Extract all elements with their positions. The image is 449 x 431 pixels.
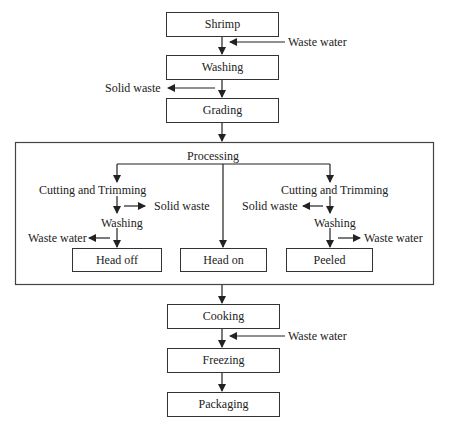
step-label: Grading: [203, 103, 242, 118]
right-cutting-trimming: Cutting and Trimming: [281, 183, 388, 197]
step-freezing: Freezing: [167, 348, 280, 373]
step-label: Shrimp: [205, 17, 240, 32]
label-waste-water-cooking: Waste water: [288, 329, 347, 343]
step-label: Freezing: [203, 353, 245, 368]
result-label: Head off: [96, 253, 138, 268]
label-waste-water-input: Waste water: [288, 35, 347, 49]
result-peeled: Peeled: [286, 248, 373, 272]
right-solid-waste: Solid waste: [242, 199, 298, 213]
result-head-on: Head on: [180, 248, 267, 272]
right-washing: Washing: [314, 216, 356, 230]
result-label: Peeled: [314, 253, 346, 268]
result-label: Head on: [203, 253, 243, 268]
step-label: Washing: [202, 60, 244, 75]
step-grading: Grading: [166, 98, 279, 123]
step-packaging: Packaging: [167, 392, 280, 417]
left-cutting-trimming: Cutting and Trimming: [39, 183, 146, 197]
step-label: Cooking: [203, 309, 244, 324]
step-washing: Washing: [166, 55, 279, 80]
step-label: Packaging: [199, 397, 249, 412]
result-head-off: Head off: [72, 248, 162, 272]
left-solid-waste: Solid waste: [154, 199, 210, 213]
left-waste-water: Waste water: [28, 231, 87, 245]
left-washing: Washing: [101, 216, 143, 230]
right-waste-water: Waste water: [364, 231, 423, 245]
processing-title: Processing: [187, 149, 239, 163]
step-shrimp: Shrimp: [166, 12, 279, 37]
step-cooking: Cooking: [167, 304, 280, 329]
label-solid-waste-output: Solid waste: [105, 81, 161, 95]
